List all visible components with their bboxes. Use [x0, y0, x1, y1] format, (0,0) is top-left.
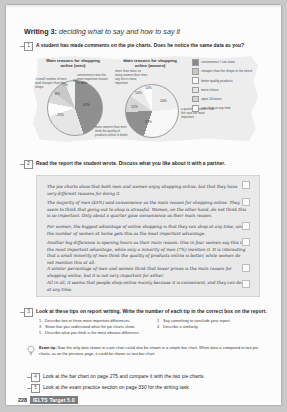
page-title-subtitle: deciding what to say and how to say it: [59, 27, 180, 36]
report-paragraph: All in all, it seems that people shop on…: [47, 280, 247, 293]
legend-swatch-icon: [192, 96, 199, 103]
chart-1-annotation-1: convenience was the most important reaso…: [77, 73, 111, 85]
legend-swatch-icon: [192, 59, 199, 66]
exercise-5-text: Look at the exam practice section on pag…: [43, 384, 190, 391]
tip-text: Describe two or three more important dif…: [45, 318, 130, 323]
student-report: The pie charts show that both men and wo…: [36, 175, 260, 297]
exercise-1: 1 A student has made comments on the pie…: [24, 42, 272, 51]
legend-item: can shop at any time: [192, 105, 252, 112]
lightbulb-icon: [26, 345, 36, 357]
exercise-2: 2 Read the report the student wrote. Dis…: [24, 160, 272, 169]
chart-2-pie: [125, 84, 179, 138]
legend-label: more choice: [201, 88, 218, 92]
chart-1-title: Main reasons for shopping online (men): [41, 58, 105, 68]
legend-item: convenience / can store: [192, 59, 252, 66]
chart-2-value-1: 31%: [145, 120, 152, 124]
exercise-1-text: A student has made comments on the pie c…: [36, 42, 244, 49]
tip-text: Describe a similarity.: [163, 324, 199, 329]
exercise-1-number[interactable]: 1: [24, 42, 33, 51]
exercise-4-text: Look at the bar chart on page 275 and co…: [43, 373, 205, 380]
legend-label: convenience / can store: [201, 60, 235, 64]
exercise-5: 5 Look at the exam practice section on p…: [31, 384, 271, 393]
chart-2-annotation-2: more women than men think the quality of…: [95, 125, 129, 137]
page-title-label: Writing 3:: [24, 27, 57, 36]
exercise-2-number[interactable]: 2: [24, 160, 33, 169]
page-title: Writing 3: deciding what to say and how …: [24, 27, 180, 36]
tip-answer-box[interactable]: [242, 264, 250, 272]
exam-tip-text: Exam tip: Now the only data shown in a p…: [39, 345, 262, 357]
report-paragraph: A similar percentage of men and women th…: [47, 266, 247, 279]
pie-charts-figure: Main reasons for shopping online (men) 4…: [33, 55, 258, 143]
chart-2-title: Main reasons for shopping online (women): [118, 58, 182, 68]
exercise-4: 4 Look at the bar chart on page 275 and …: [31, 373, 271, 382]
tips-list: 1Describe two or three more important di…: [39, 318, 279, 337]
legend-swatch-icon: [192, 87, 199, 94]
legend-swatch-icon: [192, 77, 199, 84]
tip-item: 5Describe what you think is the most obv…: [39, 330, 157, 336]
chart-legend: convenience / can store cheaper than the…: [192, 59, 252, 114]
exercise-5-number[interactable]: 5: [31, 384, 40, 393]
textbook-page: Writing 3: deciding what to say and how …: [6, 5, 281, 405]
report-paragraph: Another big difference is opening hours …: [47, 240, 247, 266]
legend-item: better quality products: [192, 77, 252, 84]
legend-label: can shop at any time: [201, 106, 230, 110]
chart-2-value-0: 24%: [160, 99, 167, 103]
exercise-4-number[interactable]: 4: [31, 373, 40, 382]
legend-item: cheaper than the shops in the street: [192, 68, 252, 75]
exercise-3-number[interactable]: 3: [24, 308, 33, 317]
tip-answer-box[interactable]: [242, 198, 250, 206]
report-paragraph: The pie charts show that both men and wo…: [47, 184, 247, 197]
exam-tip-label: Exam tip:: [39, 345, 57, 350]
chart-2-annotation-0: more than twice as many women than men s…: [115, 69, 149, 85]
chart-2-value-2: 12%: [131, 105, 138, 109]
tip-answer-box[interactable]: [242, 280, 250, 288]
chart-2-value-3: 10%: [135, 91, 142, 95]
legend-label: better quality products: [201, 79, 232, 83]
tip-text: Say something to conclude your report.: [163, 318, 231, 323]
page-number: 228: [18, 397, 27, 403]
tip-text: Describe what you think is the most obvi…: [45, 330, 140, 335]
legend-label: cheaper than the shops in the street: [201, 69, 252, 73]
exercise-3-text: Look at these tips on report writing. Wr…: [36, 308, 267, 315]
chart-1-value-1: 25%: [57, 113, 64, 117]
tip-answer-box[interactable]: [242, 238, 250, 246]
tips-row: 5Describe what you think is the most obv…: [39, 330, 279, 336]
tip-answer-box[interactable]: [242, 222, 250, 230]
exam-tip: Exam tip: Now the only data shown in a p…: [26, 345, 262, 357]
tip-text: Show that you understand what the pie ch…: [45, 324, 135, 329]
book-title: IELTS Target 5.0: [30, 396, 78, 404]
page-footer: 228 IELTS Target 5.0: [18, 396, 78, 404]
legend-swatch-icon: [192, 68, 199, 75]
exercise-3: 3 Look at these tips on report writing. …: [24, 308, 276, 317]
legend-item: more choice: [192, 87, 252, 94]
tip-answer-box[interactable]: [242, 181, 250, 189]
legend-item: open 24 hours: [192, 96, 252, 103]
exam-tip-body: Now the only data shown in a pie chart c…: [39, 345, 258, 356]
report-paragraph: The majority of men (45%) said convenien…: [47, 200, 247, 220]
chart-1-annotation-0: a small number of men said cheaper than …: [35, 77, 69, 89]
tip-item: 4Describe a similarity.: [157, 324, 275, 330]
legend-label: open 24 hours: [201, 97, 221, 101]
chart-2-value-4: 14%: [145, 86, 152, 90]
legend-swatch-icon: [192, 105, 199, 112]
report-paragraph: For women, the biggest advantage of onli…: [47, 224, 247, 237]
exercise-2-text: Read the report the student wrote. Discu…: [36, 160, 225, 167]
chart-1-value-0: 45%: [83, 103, 90, 107]
chart-1-value-2: 8%: [55, 92, 60, 96]
